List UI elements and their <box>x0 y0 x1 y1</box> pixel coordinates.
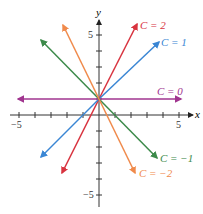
plot: x y −5 5 5 −5 C = 2 C = 1 C = 0 C = −1 C… <box>0 0 203 214</box>
label-cm2: C = −2 <box>139 167 173 179</box>
label-cm1: C = −1 <box>160 152 193 164</box>
x-tick-neg5: −5 <box>11 119 22 130</box>
label-c0: C = 0 <box>157 85 183 97</box>
y-axis-label: y <box>95 6 101 18</box>
x-tick-5: 5 <box>176 119 181 130</box>
label-c2: C = 2 <box>140 19 166 31</box>
chart: x y −5 5 5 −5 C = 2 C = 1 C = 0 C = −1 C… <box>0 0 203 214</box>
y-tick-5: 5 <box>88 29 93 40</box>
x-axis-label: x <box>194 108 200 120</box>
label-c1: C = 1 <box>161 36 187 48</box>
y-tick-neg5: −5 <box>83 189 94 200</box>
